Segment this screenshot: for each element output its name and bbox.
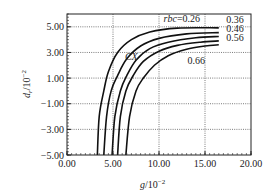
y-tick-label: 1.00: [47, 73, 65, 84]
annotation: rbc=0.26: [164, 13, 200, 24]
annotation: 0.66: [188, 55, 206, 66]
y-tick-label: −5.00: [41, 150, 64, 161]
y-tick-label: 3.00: [47, 47, 65, 58]
chart: 0.005.0010.0015.0020.00−5.00−3.00−1.001.…: [0, 0, 278, 195]
curves: [97, 28, 218, 155]
x-tick-label: 20.00: [240, 158, 263, 169]
y-axis-label: dr/10−2: [20, 70, 34, 98]
x-tick-label: 5.00: [104, 158, 122, 169]
y-tick-label: 5.00: [47, 21, 65, 32]
annotation: 0.56: [226, 32, 244, 43]
x-tick-label: 15.00: [194, 158, 217, 169]
grid-lines: [67, 14, 251, 155]
x-tick-label: 10.00: [148, 158, 171, 169]
y-tick-label: −1.00: [41, 98, 64, 109]
x-axis-label: g/10−2: [140, 178, 166, 190]
y-tick-label: −3.00: [41, 124, 64, 135]
annotation: CX: [125, 51, 139, 62]
